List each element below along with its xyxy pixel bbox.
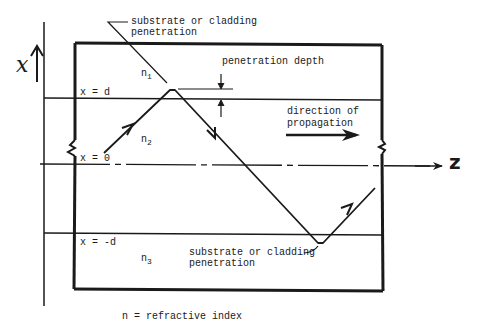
region-label-n1-sub: 1 [147,72,152,81]
z-axis-label: z [449,150,461,174]
bottom-penetration-label-line1: substrate or cladding [189,247,315,258]
bottom-penetration-label-line2: penetration [189,258,255,269]
boundary-label-top: x = d [80,87,110,98]
waveguide-diagram [0,0,483,333]
x-axis-arrow-icon [31,46,43,82]
boundary-x-d [44,98,382,100]
direction-label-line2: propagation [287,118,353,129]
boundary-label-center: x = 0 [80,153,110,164]
caption: n = refractive index [122,311,242,322]
region-label-n1: n1 [141,68,152,79]
propagation-arrow-icon [286,129,360,141]
top-penetration-label-line2: penetration [131,27,197,38]
top-penetration-label-line1: substrate or cladding [131,16,257,27]
direction-label-line1: direction of [287,106,359,117]
x-axis-label: x [16,52,28,77]
region-label-n2: n2 [141,134,152,145]
region-label-n2-sub: 2 [147,138,152,147]
region-label-n3: n3 [141,253,152,264]
penetration-depth-marker [178,74,233,117]
boundary-x-0 [40,164,430,166]
boundary-label-bottom: x = -d [80,237,116,248]
penetration-depth-label: penetration depth [222,56,324,67]
region-label-n3-sub: 3 [147,257,152,266]
